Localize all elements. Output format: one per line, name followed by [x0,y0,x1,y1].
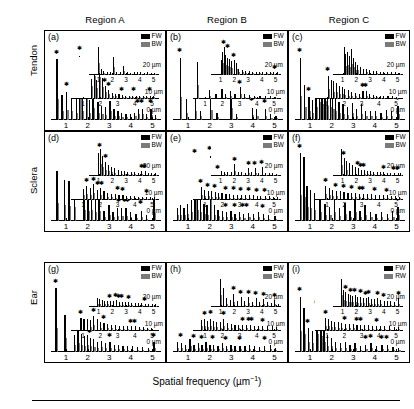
bar-fw [216,322,217,331]
bar-fw [377,298,378,307]
bar-fw [122,195,123,200]
bar-fw [263,214,264,221]
significance-star: ✱ [358,316,363,322]
axis-tick [66,117,67,121]
axis-tick [112,305,113,308]
bar-fw [349,163,350,176]
bar-fw [363,194,364,200]
significance-star: ✱ [120,186,125,192]
axis-tick-label: 2 [207,121,211,130]
bar-fw [220,279,221,307]
axis-tick [310,349,311,353]
bar-fw [191,200,192,221]
axis-tick [253,117,254,121]
bar-fw [147,72,148,75]
bar-fw [97,319,98,331]
bar-fw [111,325,112,331]
bar-fw [77,331,78,352]
significance-star: ✱ [297,143,302,149]
bar-fw [107,324,108,331]
bar-fw [383,195,384,200]
row-label-ear: Ear [28,243,39,353]
bar-fw [138,173,139,176]
axis-tick [274,349,275,353]
bar-fw [227,172,228,176]
legend: FWBW [263,33,284,49]
axis-tick [253,349,254,353]
axis-tick [131,218,132,222]
bar-fw [259,347,260,352]
significance-star: ✱ [126,294,131,300]
axis-tick-label: 1 [64,222,68,231]
bar-fw [121,208,122,221]
bar-fw [148,348,149,352]
significance-star: ✱ [231,185,236,191]
axis-tick [362,198,363,201]
x-axis-title-paren: ) [258,376,261,387]
panel-f: (f)FWBW✱✱✱✱12345✱✱✱✱✱✱✱✱12345✱✱✱✱✱✱✱1234… [288,131,410,232]
bar-fw [213,321,214,331]
axis-tick [154,174,155,177]
significance-star: ✱ [254,187,259,193]
bar-fw [380,113,381,120]
axis-tick [83,97,84,100]
axis-tick-label: 5 [274,177,278,184]
bar-fw [249,95,250,99]
axis-tick-label: 2 [233,76,237,83]
depth-label-20um: 20 µm [265,61,283,68]
bar-fw [242,70,243,75]
bar-fw [336,83,337,99]
bar-fw [256,298,257,307]
bar-fw [234,94,235,99]
bar-fw [366,69,367,75]
bar-fw [197,62,198,99]
bar-fw [349,345,350,352]
significance-star: ✱ [349,184,354,190]
axis-tick-label: 4 [138,308,142,315]
axis-tick [140,305,141,308]
axis-tick-label: 2 [111,308,115,315]
bar-fw [134,72,135,75]
axis-tick [396,349,397,353]
axis-tick-label: 3 [351,121,355,130]
legend: FWBW [385,33,406,49]
legend-label: RW [395,273,406,280]
bar-fw [381,345,382,352]
panel-a: (a)FWBW✱✱✱✱✱✱✱✱12345✱✱✱✱✱✱✱123451234520 … [44,30,166,131]
legend-entry-bw: BW [141,142,162,149]
axis-tick [353,218,354,222]
bar-fw [98,47,99,75]
bar-fw [223,319,224,331]
legend-label: FW [395,265,405,272]
bar-fw [338,102,339,120]
bar-fw [86,186,87,200]
axis-tick-label: 2 [221,100,225,107]
bar-fw [241,172,242,176]
bar-fw [244,94,245,99]
bar-fw [270,345,271,352]
axis-tick [327,97,328,100]
bar-fw [137,347,138,352]
axis-tick-label: 4 [260,177,264,184]
depth-label-20um: 20 µm [143,162,161,169]
bar-fw [242,325,243,331]
bar-fw [142,197,143,201]
significance-star: ✱ [103,153,108,159]
axis-tick-label: 5 [272,222,276,231]
depth-label-20um: 20 µm [265,293,283,300]
depth-label-0um: 0 µm [146,207,161,214]
bar-fw [328,76,329,99]
axis-tick [332,117,333,121]
bar-fw [275,116,276,120]
bar-fw [391,196,392,200]
axis-tick [210,117,211,121]
bar-fw [394,302,395,307]
bar-fw [312,100,313,120]
bar-fw [226,346,227,352]
bar-fw [367,171,368,176]
significance-star: ✱ [246,289,251,295]
bar-fw [259,302,260,307]
bar-fw [118,345,119,352]
legend-entry-fw: FW [385,134,406,141]
panel-label: (h) [170,264,181,274]
